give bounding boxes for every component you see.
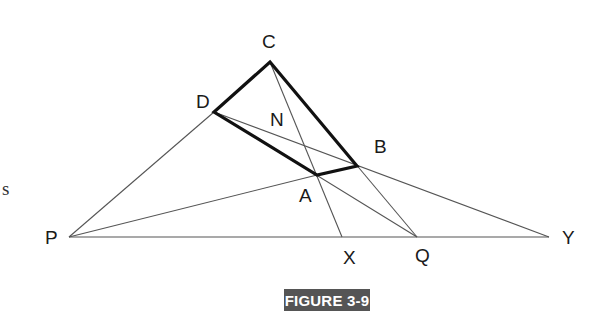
point-label-y: Y — [562, 228, 575, 247]
point-label-c: C — [262, 32, 276, 51]
point-label-n: N — [270, 110, 284, 129]
line-cx — [270, 62, 342, 237]
point-label-q: Q — [415, 246, 430, 265]
point-label-a: A — [299, 186, 312, 205]
point-label-p: P — [45, 228, 58, 247]
edge-text: s — [2, 178, 9, 200]
quadrilateral-cbad — [214, 62, 357, 175]
point-label-x: X — [343, 248, 356, 267]
point-label-d: D — [196, 92, 210, 111]
line-pd — [69, 112, 214, 237]
geometry-diagram — [0, 0, 600, 335]
line-pa — [69, 175, 317, 237]
line-dy — [214, 112, 549, 237]
point-label-b: B — [374, 137, 387, 156]
figure-caption: FIGURE 3-9 — [284, 289, 370, 311]
